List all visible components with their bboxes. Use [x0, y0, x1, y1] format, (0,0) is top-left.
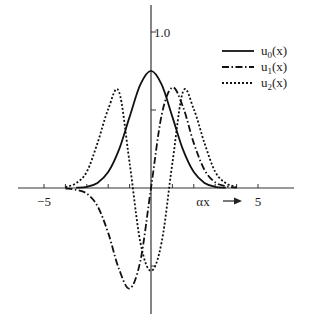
legend-label-u2: u2(x)	[261, 75, 287, 92]
arrow-right-icon	[223, 198, 242, 205]
chart: −5 5 1.0 αx u0(x) u1(x) u2(x)	[0, 0, 310, 330]
legend-label-u1: u1(x)	[261, 59, 287, 76]
legend-item-u2: u2(x)	[222, 75, 287, 92]
x-axis-label: αx	[196, 194, 242, 209]
legend: u0(x) u1(x) u2(x)	[222, 43, 287, 92]
x-min-tick-label: −5	[37, 194, 51, 209]
legend-item-u1: u1(x)	[222, 59, 287, 76]
y-top-tick-label: 1.0	[154, 25, 170, 40]
x-axis-label-text: αx	[196, 194, 210, 209]
legend-item-u0: u0(x)	[222, 43, 287, 60]
x-max-tick-label: 5	[255, 194, 262, 209]
legend-label-u0: u0(x)	[261, 43, 287, 60]
y-ticks	[151, 32, 156, 266]
